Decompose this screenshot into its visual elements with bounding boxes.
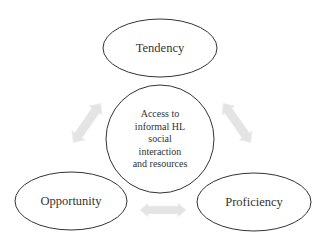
center-label-line: Access to bbox=[112, 108, 208, 121]
arrow-tendency-proficiency bbox=[217, 99, 258, 147]
center-label: Access to informal HL social interaction… bbox=[112, 108, 208, 171]
arrow-opportunity-tendency bbox=[67, 99, 108, 147]
arrow-opportunity-proficiency bbox=[140, 203, 186, 217]
center-label-line: interaction bbox=[112, 145, 208, 158]
center-label-line: informal HL bbox=[112, 120, 208, 133]
tendency-label: Tendency bbox=[136, 41, 184, 56]
opportunity-label: Opportunity bbox=[40, 194, 101, 209]
proficiency-label: Proficiency bbox=[225, 195, 283, 210]
center-label-line: social bbox=[112, 133, 208, 146]
center-label-line: and resources bbox=[112, 158, 208, 171]
